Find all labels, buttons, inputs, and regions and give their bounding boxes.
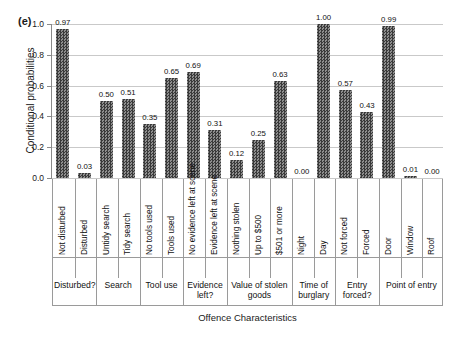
category-label: Day — [319, 177, 328, 255]
bar-value-label: 0.63 — [263, 70, 297, 79]
group-label: Search — [96, 280, 139, 290]
plot-area: 0.970.030.500.510.350.650.690.310.120.25… — [52, 24, 443, 178]
category-separator — [422, 179, 423, 258]
group-inner-tick — [270, 258, 271, 278]
group-label: Evidence left? — [183, 280, 226, 300]
group-inner-tick — [401, 258, 402, 278]
group-inner-tick — [249, 258, 250, 278]
bar-value-label: 0.03 — [68, 162, 102, 171]
category-separator — [357, 179, 358, 258]
bar — [252, 140, 265, 179]
group-inner-tick — [118, 258, 119, 278]
y-tick-label: 0.4 — [16, 111, 44, 121]
group-inner-tick — [357, 258, 358, 278]
y-tick-label: 0.0 — [16, 173, 44, 183]
bar-value-label: 0.43 — [350, 101, 384, 110]
bar-value-label: 0.00 — [415, 167, 449, 176]
category-label: Evidence left at scene — [210, 177, 219, 255]
bar-item: 0.43 — [360, 24, 373, 178]
bar-item: 0.00 — [295, 24, 308, 178]
bar-value-label: 0.97 — [46, 18, 80, 27]
group-label: Value of stolen goods — [227, 280, 292, 300]
category-label: No tools used — [145, 177, 154, 255]
bar-item: 0.63 — [274, 24, 287, 178]
bar-item: 0.97 — [56, 24, 69, 178]
bar-item: 0.12 — [230, 24, 243, 178]
bar — [143, 124, 156, 178]
y-tick-label: 0.2 — [16, 142, 44, 152]
bar — [274, 81, 287, 178]
bar-value-label: 0.31 — [198, 119, 232, 128]
bar-item: 0.50 — [100, 24, 113, 178]
bar-item: 0.03 — [78, 24, 91, 178]
y-tick-label: 0.8 — [16, 50, 44, 60]
group-inner-tick — [422, 258, 423, 278]
category-label: $501 or more — [275, 177, 284, 255]
bar-value-label: 0.00 — [285, 167, 319, 176]
y-tick-label: 0.6 — [16, 81, 44, 91]
y-tick-label: 1.0 — [16, 19, 44, 29]
figure-panel-e: (e) Conditional probabilities 0.00.20.40… — [0, 0, 460, 337]
category-label: Roof — [427, 177, 436, 255]
category-separator — [205, 179, 206, 258]
category-label: Untidy search — [102, 177, 111, 255]
group-label-band: Disturbed?SearchTool useEvidence left?Va… — [52, 258, 443, 306]
category-label-band: Not disturbedDisturbedUntidy searchTidy … — [52, 179, 443, 258]
group-label: Tool use — [140, 280, 183, 290]
category-separator — [379, 179, 380, 258]
category-label: Forced — [362, 177, 371, 255]
bar-value-label: 1.00 — [307, 13, 341, 22]
group-inner-tick — [314, 258, 315, 278]
category-separator — [96, 179, 97, 258]
category-label: No evidence left at scene — [188, 177, 197, 255]
category-label: Disturbed — [80, 177, 89, 255]
category-label: Nothing stolen — [232, 177, 241, 255]
category-label: Up to $500 — [254, 177, 263, 255]
category-separator — [270, 179, 271, 258]
bar — [122, 99, 135, 178]
bar-value-label: 0.57 — [328, 79, 362, 88]
bar — [100, 101, 113, 178]
category-separator — [249, 179, 250, 258]
category-separator — [227, 179, 228, 258]
bar — [56, 29, 69, 178]
bar — [165, 78, 178, 178]
bar-value-label: 0.35 — [133, 113, 167, 122]
bar-item: 0.51 — [122, 24, 135, 178]
category-separator — [140, 179, 141, 258]
x-axis-title: Offence Characteristics — [52, 312, 443, 323]
bar-item: 0.00 — [426, 24, 439, 178]
bar — [382, 26, 395, 178]
group-inner-tick — [162, 258, 163, 278]
category-separator — [401, 179, 402, 258]
category-label: Not forced — [340, 177, 349, 255]
bar-value-label: 0.12 — [220, 149, 254, 158]
category-label: Tools used — [167, 177, 176, 255]
group-inner-tick — [205, 258, 206, 278]
bar-value-label: 0.25 — [241, 129, 275, 138]
group-inner-tick — [75, 258, 76, 278]
bar-item: 0.01 — [404, 24, 417, 178]
bar-value-label: 0.69 — [176, 61, 210, 70]
group-label: Time of burglary — [292, 280, 335, 300]
category-label: Door — [384, 177, 393, 255]
bar-item: 0.69 — [187, 24, 200, 178]
category-separator — [75, 179, 76, 258]
group-label: Disturbed? — [53, 280, 96, 290]
category-separator — [118, 179, 119, 258]
bar — [317, 24, 330, 178]
bar — [360, 112, 373, 178]
category-separator — [292, 179, 293, 258]
category-label: Not disturbed — [58, 177, 67, 255]
bar-item: 0.25 — [252, 24, 265, 178]
bar-item: 0.35 — [143, 24, 156, 178]
category-separator — [335, 179, 336, 258]
y-axis-title: Conditional probabilities — [25, 11, 36, 191]
bar-item: 0.65 — [165, 24, 178, 178]
category-label: Tidy search — [123, 177, 132, 255]
category-separator — [183, 179, 184, 258]
bar-value-label: 0.51 — [111, 88, 145, 97]
bar-item: 0.99 — [382, 24, 395, 178]
bar — [230, 160, 243, 178]
category-label: Night — [297, 177, 306, 255]
